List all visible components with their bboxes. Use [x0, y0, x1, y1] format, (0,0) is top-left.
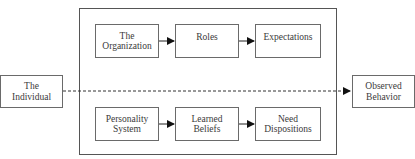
expectations-box: Expectations — [255, 24, 321, 58]
organization-box: The Organization — [95, 24, 159, 58]
need-dispositions-label: Need Dispositions — [264, 114, 312, 135]
personality-system-box: Personality System — [95, 107, 159, 141]
learned-beliefs-label: Learned Beliefs — [191, 114, 222, 135]
observed-behavior-label: Observed Behavior — [365, 81, 401, 102]
expectations-label: Expectations — [263, 32, 312, 43]
observed-behavior-box: Observed Behavior — [352, 75, 415, 108]
personality-system-label: Personality System — [106, 114, 149, 135]
individual-box: The Individual — [0, 75, 63, 108]
individual-label: The Individual — [12, 81, 51, 102]
organization-label: The Organization — [102, 31, 151, 52]
roles-box: Roles — [175, 24, 239, 58]
roles-label: Roles — [196, 32, 218, 43]
need-dispositions-box: Need Dispositions — [255, 107, 321, 141]
learned-beliefs-box: Learned Beliefs — [175, 107, 239, 141]
